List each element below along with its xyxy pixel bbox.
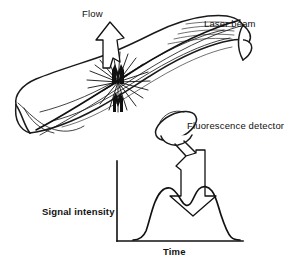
flow-cytometry-diagram: Flow Laser beam Fluorescence detector Si…	[0, 0, 295, 260]
label-signal-intensity: Signal intensity	[42, 206, 115, 217]
down-arrow-outline-icon	[170, 150, 216, 216]
label-fluorescence-detector: Fluorescence detector	[187, 120, 284, 131]
flow-cell-hourglass-icon	[16, 15, 252, 133]
label-time: Time	[163, 246, 186, 257]
label-flow: Flow	[82, 8, 103, 19]
label-laser-beam: Laser beam	[204, 18, 256, 29]
